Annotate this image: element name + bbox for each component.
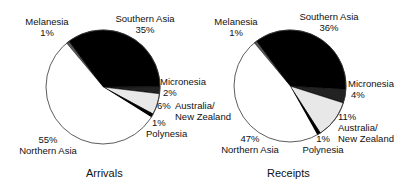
label-polynesia: 1% Polynesia xyxy=(302,133,344,155)
arrivals-caption: Arrivals xyxy=(86,167,123,179)
label-polynesia: 1% Polynesia xyxy=(146,117,187,139)
label-northern-asia: 55% Northern Asia xyxy=(18,134,78,156)
label-micronesia: Micronesia 2% xyxy=(160,76,206,98)
receipts-chart: Melanesia 1% Southern Asia 36% Micronesi… xyxy=(203,0,406,188)
label-southern-asia: Southern Asia 36% xyxy=(294,11,364,33)
label-micronesia: Micronesia 4% xyxy=(348,78,394,100)
label-melanesia: Melanesia 1% xyxy=(22,16,72,38)
label-melanesia: Melanesia 1% xyxy=(211,16,261,38)
arrivals-chart: Melanesia 1% Southern Asia 35% Micronesi… xyxy=(0,0,203,188)
label-australia-pct: 6% xyxy=(157,100,171,111)
label-northern-asia: 47% Northern Asia xyxy=(220,133,280,155)
label-australia: 11% Australia/ New Zealand xyxy=(338,111,394,144)
label-southern-asia: Southern Asia 35% xyxy=(110,13,180,35)
receipts-caption: Receipts xyxy=(267,167,310,179)
